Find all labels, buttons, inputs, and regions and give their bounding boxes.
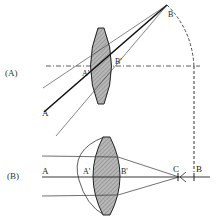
panel-b: (B) A A' B' C B <box>7 137 210 215</box>
biconvex-lens-b <box>93 137 120 215</box>
point-a-prime-label-b: A' <box>83 167 91 176</box>
lower-ray <box>56 5 167 136</box>
point-c-label: C <box>173 164 179 174</box>
point-b-label-b: B <box>196 164 202 174</box>
point-a-prime-label: A' <box>82 69 90 78</box>
point-a-label: A <box>42 108 49 118</box>
panel-a-label: (A) <box>5 68 18 78</box>
point-b-prime-label: B' <box>115 57 122 66</box>
point-b-prime-label-b: B' <box>121 167 128 176</box>
lens-diagram: (A) A A' B' B (B) <box>0 0 216 219</box>
biconvex-lens-a <box>91 28 112 104</box>
panel-b-label: (B) <box>7 171 19 181</box>
point-a-label-b: A <box>42 166 49 176</box>
lower-converging-ray <box>118 177 179 195</box>
point-b-label: B <box>168 10 173 19</box>
